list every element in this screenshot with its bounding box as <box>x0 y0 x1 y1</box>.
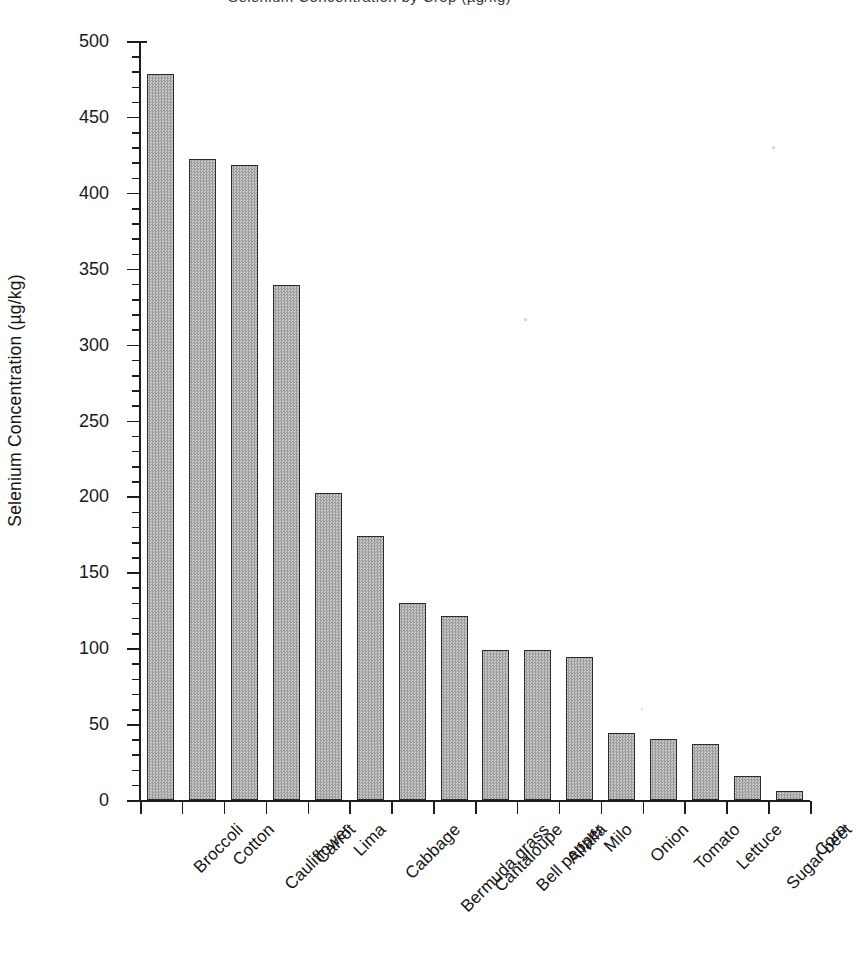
y-axis-minor-tick <box>132 254 140 256</box>
y-axis-major-tick: 400 <box>127 193 140 195</box>
y-axis-title-text: Selenium Concentration (µg/kg) <box>5 274 26 526</box>
y-axis-tick-label: 50 <box>89 714 109 735</box>
y-axis-minor-tick <box>132 329 140 331</box>
bar <box>441 616 468 800</box>
y-axis-minor-tick <box>132 375 140 377</box>
y-axis-tick-label: 0 <box>99 790 109 811</box>
selenium-concentration-bar-chart: Selenium Concentration by Crop (µg/kg) S… <box>0 0 859 958</box>
x-axis-tick <box>475 801 477 814</box>
y-axis-minor-tick <box>132 178 140 180</box>
x-axis-category-label: Tomato <box>691 820 745 874</box>
y-axis-tick-label: 250 <box>79 410 109 431</box>
y-axis-minor-tick <box>132 284 140 286</box>
x-axis-tick <box>140 801 142 814</box>
y-axis-minor-tick <box>132 208 140 210</box>
y-axis-minor-tick <box>132 238 140 240</box>
y-axis-major-tick: 250 <box>127 421 140 423</box>
x-axis-tick <box>684 801 686 814</box>
y-axis-minor-tick <box>132 587 140 589</box>
bar <box>608 733 635 800</box>
bar <box>776 791 803 800</box>
y-axis-minor-tick <box>132 71 140 73</box>
bar <box>357 536 384 800</box>
y-axis-minor-tick <box>132 223 140 225</box>
bar <box>482 650 509 800</box>
y-axis-minor-tick <box>132 527 140 529</box>
y-axis-minor-tick <box>132 436 140 438</box>
y-axis-major-tick: 100 <box>127 648 140 650</box>
y-axis-minor-tick <box>132 360 140 362</box>
y-axis-minor-tick <box>132 147 140 149</box>
y-axis-minor-tick <box>132 754 140 756</box>
y-axis-major-tick: 500 <box>127 41 140 43</box>
y-axis-minor-tick <box>132 542 140 544</box>
y-axis-minor-tick <box>132 770 140 772</box>
y-axis-minor-tick <box>132 405 140 407</box>
y-axis-tick-label: 450 <box>79 106 109 127</box>
bar <box>566 657 593 800</box>
y-axis-minor-tick <box>132 512 140 514</box>
bar <box>692 744 719 800</box>
bar <box>734 776 761 800</box>
y-axis-tick-label: 500 <box>79 31 109 52</box>
x-axis-tick <box>182 801 184 814</box>
y-axis-tick-label: 350 <box>79 258 109 279</box>
y-axis-minor-tick <box>132 451 140 453</box>
x-axis-tick <box>810 801 812 814</box>
y-axis-major-tick: 200 <box>127 496 140 498</box>
y-axis-minor-tick <box>132 56 140 58</box>
x-axis-tick <box>601 801 603 814</box>
x-axis-tick <box>643 801 645 814</box>
x-axis-tick <box>559 801 561 814</box>
bar <box>399 603 426 800</box>
y-axis-major-tick: 350 <box>127 269 140 271</box>
x-axis-tick <box>726 801 728 814</box>
y-axis-minor-tick <box>132 785 140 787</box>
y-axis-minor-tick <box>132 87 140 89</box>
y-axis-minor-tick <box>132 102 140 104</box>
x-axis-tick <box>349 801 351 814</box>
bar <box>273 285 300 800</box>
bar <box>147 74 174 800</box>
x-axis-category-label: Cabbage <box>402 820 465 883</box>
y-axis-minor-tick <box>132 390 140 392</box>
x-axis-category-label: Milo <box>600 820 636 856</box>
x-axis-tick <box>517 801 519 814</box>
chart-title-cropped: Selenium Concentration by Crop (µg/kg) <box>0 0 859 9</box>
y-axis-minor-tick <box>132 314 140 316</box>
x-axis-category-label: Lima <box>350 820 390 860</box>
y-axis-tick-label: 100 <box>79 638 109 659</box>
x-axis-category-label: Onion <box>646 820 693 867</box>
y-axis-minor-tick <box>132 603 140 605</box>
x-axis-tick <box>433 801 435 814</box>
x-axis-tick <box>224 801 226 814</box>
x-axis-tick <box>391 801 393 814</box>
y-axis-major-tick: 0 <box>127 800 140 802</box>
x-axis-tick <box>768 801 770 814</box>
y-axis-minor-tick <box>132 739 140 741</box>
y-axis-tick-label: 400 <box>79 182 109 203</box>
y-axis-tick-label: 300 <box>79 334 109 355</box>
y-axis-minor-tick <box>132 162 140 164</box>
y-axis-minor-tick <box>132 709 140 711</box>
bar <box>650 739 677 800</box>
y-axis-minor-tick <box>132 299 140 301</box>
y-axis-minor-tick <box>132 466 140 468</box>
y-axis-major-tick: 150 <box>127 572 140 574</box>
y-axis-major-tick: 300 <box>127 345 140 347</box>
y-axis-minor-tick <box>132 679 140 681</box>
y-axis-minor-tick <box>132 132 140 134</box>
y-axis-title: Selenium Concentration (µg/kg) <box>0 0 30 800</box>
y-axis-minor-tick <box>132 663 140 665</box>
bar <box>189 159 216 800</box>
x-axis-tick <box>308 801 310 814</box>
y-axis-tick-label: 150 <box>79 562 109 583</box>
y-axis-minor-tick <box>132 633 140 635</box>
x-axis-tick <box>266 801 268 814</box>
bar <box>315 493 342 800</box>
y-axis-minor-tick <box>132 694 140 696</box>
x-axis-category-label: Lettuce <box>733 820 787 874</box>
bar <box>231 165 258 800</box>
chart-title-text: Selenium Concentration by Crop (µg/kg) <box>228 0 511 5</box>
y-axis-tick-label: 200 <box>79 486 109 507</box>
